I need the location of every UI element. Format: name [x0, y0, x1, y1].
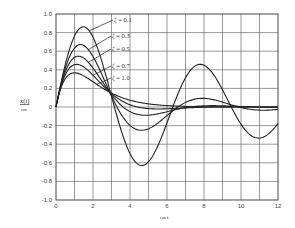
- y-tick-label: 0: [49, 104, 53, 110]
- zeta-label: ζ = 0.5: [112, 45, 130, 53]
- y-tick-label: 0.2: [44, 85, 53, 91]
- y-axis-label-denominator: ωn: [21, 107, 27, 112]
- y-tick-label: 0.6: [44, 48, 53, 54]
- y-tick-label: 1.0: [44, 11, 53, 17]
- zeta-label: ζ = 1.0: [112, 74, 130, 82]
- x-tick-label: 8: [202, 203, 206, 209]
- y-tick-label: 0.8: [44, 30, 53, 36]
- y-tick-label: -0.6: [42, 160, 53, 166]
- y-tick-label: -0.4: [42, 141, 53, 147]
- y-tick-label: -1.0: [42, 197, 53, 203]
- x-tick-label: 6: [165, 203, 169, 209]
- zeta-label: ζ = 0.7: [112, 62, 130, 70]
- y-axis-ticks: 1.00.80.60.40.20-0.2-0.4-0.6-0.8-1.0: [42, 11, 53, 203]
- x-axis-label: ωn t: [160, 215, 169, 220]
- x-tick-label: 4: [128, 203, 132, 209]
- zeta-label: ζ = 0.3: [112, 32, 130, 40]
- x-tick-label: 2: [91, 203, 95, 209]
- x-tick-label: 10: [238, 203, 245, 209]
- y-tick-label: 0.4: [44, 67, 53, 73]
- leader-line: [88, 36, 111, 50]
- x-axis-ticks: 024681012: [54, 203, 282, 209]
- x-tick-label: 12: [275, 203, 282, 209]
- x-tick-label: 0: [54, 203, 58, 209]
- y-tick-label: -0.8: [42, 178, 53, 184]
- zeta-label: ζ = 0.1: [114, 16, 132, 24]
- zeta-labels: ζ = 0.1ζ = 0.3ζ = 0.5ζ = 0.7ζ = 1.0: [112, 16, 132, 82]
- impulse-response-chart: 1.00.80.60.40.20-0.2-0.4-0.6-0.8-1.0 024…: [0, 0, 295, 228]
- y-tick-label: -0.2: [42, 123, 53, 129]
- y-axis-label-numerator: x(t): [20, 97, 29, 105]
